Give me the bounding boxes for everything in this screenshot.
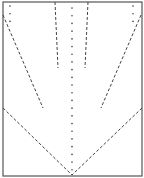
dotted-lines-group: [10, 6, 133, 170]
inner-left-dashed-line: [55, 2, 58, 68]
bottom-left-dashed-diagonal: [3, 108, 72, 175]
paper-border: [3, 2, 142, 176]
outer-right-dashed-diagonal: [101, 15, 141, 108]
dashed-lines-group: [3, 2, 142, 175]
outer-left-dashed-diagonal: [3, 15, 43, 108]
bottom-right-dashed-diagonal: [72, 108, 142, 175]
folding-diagram: [0, 0, 144, 178]
inner-right-dashed-line: [85, 2, 88, 68]
